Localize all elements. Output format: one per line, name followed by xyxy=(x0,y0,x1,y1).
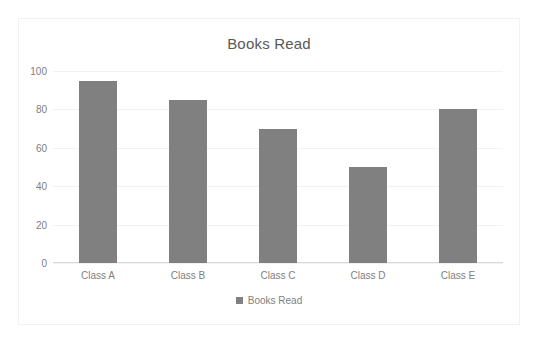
plot-area: 020406080100 Class AClass BClass CClass … xyxy=(53,71,503,263)
bar[interactable] xyxy=(79,81,117,263)
legend-label: Books Read xyxy=(248,295,302,306)
y-axis-tick-label: 40 xyxy=(36,181,47,192)
bar[interactable] xyxy=(169,100,207,263)
chart-legend: Books Read xyxy=(19,295,519,306)
y-axis-tick-label: 100 xyxy=(30,66,47,77)
bar[interactable] xyxy=(439,109,477,263)
bar-group: Class A xyxy=(53,71,143,263)
y-axis-tick-label: 80 xyxy=(36,104,47,115)
x-axis-tick-label: Class C xyxy=(233,270,323,281)
x-axis-tick-label: Class B xyxy=(143,270,233,281)
bar-group: Class D xyxy=(323,71,413,263)
y-axis-tick-label: 0 xyxy=(41,258,47,269)
y-axis-tick-label: 20 xyxy=(36,219,47,230)
x-axis-tick-label: Class A xyxy=(53,270,143,281)
bar[interactable] xyxy=(259,129,297,263)
bar-group: Class E xyxy=(413,71,503,263)
bar[interactable] xyxy=(349,167,387,263)
chart-title: Books Read xyxy=(19,35,519,52)
gridline xyxy=(53,263,503,264)
legend-swatch-icon xyxy=(236,297,243,304)
y-axis-tick-label: 60 xyxy=(36,142,47,153)
chart-container: Books Read 020406080100 Class AClass BCl… xyxy=(18,18,520,325)
bar-group: Class B xyxy=(143,71,233,263)
x-axis-tick-label: Class D xyxy=(323,270,413,281)
bar-series: Class AClass BClass CClass DClass E xyxy=(53,71,503,263)
bar-group: Class C xyxy=(233,71,323,263)
x-axis-tick-label: Class E xyxy=(413,270,503,281)
